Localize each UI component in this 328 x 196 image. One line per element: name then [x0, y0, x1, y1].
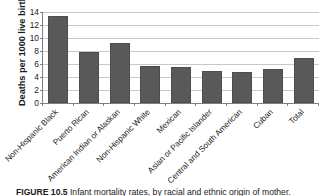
- bar-total: [294, 58, 314, 103]
- bar-central-and-south-american: [232, 72, 252, 103]
- x-axis-label-cuban: Cuban: [128, 108, 275, 196]
- x-axis-label-puerto-rican: Puerto Rican: [0, 108, 91, 196]
- x-axis-label-non-hispanic-white: Non-Hispanic White: [5, 108, 152, 196]
- x-axis-label-central-and-south-american: Central and South American: [97, 108, 244, 196]
- y-tick-label-0: 0: [22, 99, 39, 107]
- x-tick-mark: [226, 103, 227, 106]
- bar-slot: [135, 12, 166, 103]
- bar-slot: [74, 12, 105, 103]
- y-tick-label-12: 12: [22, 21, 39, 29]
- figure-caption: FIGURE 10.5 Infant mortality rates, by r…: [16, 187, 322, 196]
- x-tick-mark: [73, 103, 74, 106]
- bar-american-indian-or-alaskan: [110, 43, 130, 103]
- y-tick-label-2: 2: [22, 86, 39, 94]
- bar-puerto-rican: [79, 52, 99, 103]
- y-tick-label-8: 8: [22, 47, 39, 55]
- bar-slot: [227, 12, 258, 103]
- x-axis-label-american-indian-or-alaskan: American Indian or Alaskan: [0, 108, 122, 196]
- bar-non-hispanic-white: [140, 66, 160, 103]
- x-tick-mark: [134, 103, 135, 106]
- plot-area: [42, 12, 319, 104]
- y-tick-label-14: 14: [22, 8, 39, 16]
- bar-series: [43, 12, 319, 103]
- bar-slot: [288, 12, 319, 103]
- x-axis-label-mexican: Mexican: [36, 108, 183, 196]
- bar-slot: [166, 12, 197, 103]
- bar-slot: [43, 12, 74, 103]
- figure-caption-text: Infant mortality rates, by racial and et…: [70, 187, 291, 196]
- x-tick-mark: [165, 103, 166, 106]
- bar-cuban: [263, 69, 283, 103]
- bar-asian-or-pacific-islander: [202, 71, 222, 104]
- y-tick-label-6: 6: [22, 60, 39, 68]
- bar-mexican: [171, 67, 191, 103]
- x-tick-mark: [257, 103, 258, 106]
- x-axis-ticks: [42, 103, 319, 107]
- y-tick-label-10: 10: [22, 34, 39, 42]
- x-tick-mark: [42, 103, 43, 106]
- figure-caption-label: FIGURE 10.5: [16, 187, 68, 196]
- figure-container: Deaths per 1000 live births 14121086420 …: [0, 0, 328, 196]
- bar-slot: [258, 12, 289, 103]
- x-axis-label-non-hispanic-black: Non-Hispanic Black: [0, 108, 60, 196]
- x-tick-mark: [103, 103, 104, 106]
- x-tick-mark: [318, 103, 319, 106]
- bar-non-hispanic-black: [48, 16, 68, 103]
- x-tick-mark: [195, 103, 196, 106]
- bar-slot: [104, 12, 135, 103]
- y-axis-tick-labels: 14121086420: [22, 12, 39, 103]
- x-tick-mark: [287, 103, 288, 106]
- x-axis-label-total: Total: [158, 108, 305, 196]
- x-axis-label-asian-or-pacific-islander: Asian or Pacific Islander: [66, 108, 213, 196]
- bar-slot: [196, 12, 227, 103]
- y-tick-label-4: 4: [22, 73, 39, 81]
